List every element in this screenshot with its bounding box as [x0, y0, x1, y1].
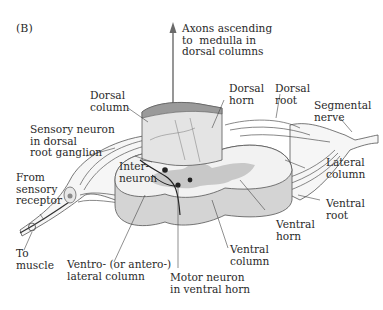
label-ventral-column: Ventral column [230, 244, 269, 267]
label-dorsal-horn: Dorsal horn [229, 83, 264, 106]
label-lateral-column: Lateral column [326, 157, 365, 180]
interneuron-cell-body [162, 167, 168, 173]
label-to-muscle: To muscle [16, 248, 54, 271]
label-segmental-nerve: Segmental nerve [314, 100, 371, 123]
label-dorsal-column: Dorsal column [90, 90, 129, 113]
label-motor-neuron: Motor neuron in ventral horn [170, 272, 250, 295]
label-interneuron: Inter- neuron [119, 161, 157, 184]
sensory-neuron-cell-body [68, 194, 73, 199]
label-ventral-horn: Ventral horn [276, 219, 315, 242]
label-dorsal-root: Dorsal root [275, 83, 310, 106]
panel-label: (B) [16, 23, 33, 35]
spinal-cord-diagram: (B) Axons ascending to medulla in dorsal… [0, 0, 383, 310]
dorsal-column-block [142, 102, 222, 165]
label-sensory-neuron: Sensory neuron in dorsal root ganglion [30, 124, 115, 159]
label-ventral-root: Ventral root [326, 198, 365, 221]
label-from-sensory-receptor: From sensory receptor [16, 172, 62, 207]
label-ventrolateral-column: Ventro- (or antero-) lateral column [67, 259, 171, 282]
label-axons-ascending: Axons ascending to medulla in dorsal col… [182, 23, 272, 58]
